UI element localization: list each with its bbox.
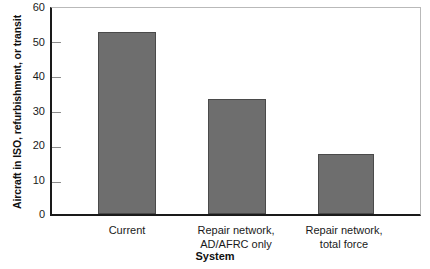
y-tick-label-10: 10	[0, 174, 45, 186]
y-tick-mark-20	[52, 147, 61, 148]
y-tick-mark-50	[52, 42, 61, 43]
bar-repair-network-total-force[interactable]	[318, 154, 374, 214]
y-tick-label-30: 30	[0, 105, 45, 117]
bar-repair-network-ad-afrc-only[interactable]	[208, 99, 266, 214]
y-tick-mark-40	[52, 77, 61, 78]
y-tick-mark-10	[52, 182, 61, 183]
y-tick-label-0: 0	[0, 208, 45, 220]
x-axis-title: System	[0, 250, 430, 262]
bar-chart: Aircraft in ISO, refurbishment, or trans…	[0, 0, 430, 269]
y-tick-label-40: 40	[0, 70, 45, 82]
y-axis-tick-labels: 60 50 40 30 20 10 0	[0, 0, 46, 269]
y-tick-label-60: 60	[0, 1, 45, 13]
bar-current[interactable]	[98, 32, 156, 214]
x-tick-label-repair-network-total-force: Repair network, total force	[279, 224, 409, 251]
y-tick-label-20: 20	[0, 139, 45, 151]
plot-area	[50, 7, 421, 216]
y-tick-label-50: 50	[0, 36, 45, 48]
y-tick-mark-30	[52, 112, 61, 113]
